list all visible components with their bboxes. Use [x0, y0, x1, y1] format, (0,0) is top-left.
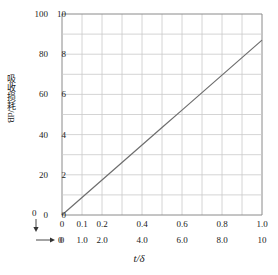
- x-axis-tick-secondary: 6.0: [167, 236, 197, 245]
- x-axis-tick-secondary: 10: [247, 236, 277, 245]
- x-axis-tick-primary: 0.6: [167, 220, 197, 229]
- x-axis-tick-primary: 0.8: [207, 220, 237, 229]
- x-axis-tick-primary: 0.2: [87, 220, 117, 229]
- x-axis-tick-primary: 1.0: [247, 220, 277, 229]
- y-axis-tick-secondary: 8: [50, 50, 66, 59]
- x-axis-tick-secondary: 4.0: [127, 236, 157, 245]
- y-axis-tick-primary: 60: [22, 90, 48, 99]
- x-axis-tick-secondary: 8.0: [207, 236, 237, 245]
- x-origin-marker: 0: [58, 236, 63, 245]
- y-origin-marker: 0: [32, 209, 37, 218]
- y-axis-tick-secondary: 6: [50, 90, 66, 99]
- x-axis-tick-secondary: 2.0: [87, 236, 117, 245]
- y-axis-tick-secondary: 2: [50, 171, 66, 180]
- x-axis-label: t/δ: [0, 252, 278, 264]
- x-axis-tick-primary: 0.4: [127, 220, 157, 229]
- origin-arrow-down-head: [33, 227, 38, 232]
- y-axis-label: 吸收损耗/dB: [2, 74, 16, 123]
- y-axis-tick-secondary: 4: [50, 131, 66, 140]
- y-axis-tick-primary: 100: [22, 10, 48, 19]
- y-axis-tick-primary: 80: [22, 50, 48, 59]
- y-axis-tick-primary: 20: [22, 171, 48, 180]
- y-axis-tick-primary: 40: [22, 131, 48, 140]
- y-axis-tick-secondary: 10: [50, 10, 66, 19]
